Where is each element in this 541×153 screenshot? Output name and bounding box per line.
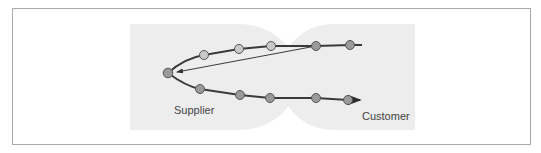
node-lower-2 [236, 91, 245, 100]
node-lower-4 [312, 94, 321, 103]
node-upper-3 [267, 42, 276, 51]
supplier-label: Supplier [174, 104, 214, 116]
node-lower-1 [196, 85, 205, 94]
node-upper-1 [200, 51, 209, 60]
node-lower-5 [344, 96, 353, 105]
diagram-canvas [0, 0, 541, 153]
customer-label: Customer [362, 110, 410, 122]
node-upper-4 [312, 42, 321, 51]
node-lower-3 [266, 94, 275, 103]
node-upper-5 [346, 41, 355, 50]
node-apex [163, 68, 173, 78]
node-upper-2 [235, 45, 244, 54]
